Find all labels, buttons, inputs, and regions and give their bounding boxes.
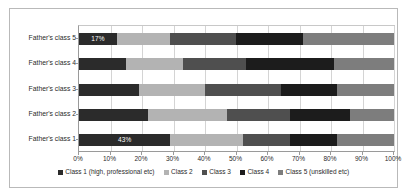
legend-label: Class 1 (high, professional etc) [65,169,154,176]
y-axis-tick [76,139,78,140]
y-axis-label-5: Father's class 5 [12,34,76,41]
legend-item-2[interactable]: Class 2 [164,169,193,176]
y-axis-label-2: Father's class 2 [12,110,76,117]
legend-swatch-icon [202,170,207,175]
bar-segment[interactable] [334,58,394,70]
bar-segment[interactable] [126,58,183,70]
bar-segment[interactable] [227,109,290,121]
x-axis-tick-label: 10% [103,156,116,163]
bar-segment[interactable] [337,134,394,146]
bar-segment[interactable] [139,84,205,96]
bar-row: 43% [79,134,394,146]
bar-row: 17% [79,33,394,45]
x-axis-tick-label: 0% [73,156,82,163]
x-axis-tick-label: 20% [134,156,147,163]
y-axis-tick [76,89,78,90]
bar-segment-data-label: 17% [79,35,117,42]
bar-segment[interactable] [117,33,171,45]
x-axis-tick-label: 70% [292,156,305,163]
bar-track [79,58,394,70]
chart-legend: Class 1 (high, professional etc)Class 2C… [10,169,397,176]
y-axis-label-3: Father's class 3 [12,85,76,92]
bar-track [79,109,394,121]
x-axis-tick-label: 80% [323,156,336,163]
legend-item-3[interactable]: Class 3 [202,169,231,176]
bar-segment[interactable] [79,58,126,70]
bar-segment[interactable] [350,109,394,121]
bar-segment[interactable] [243,134,290,146]
x-axis-tick-label: 40% [197,156,210,163]
bar-segment[interactable] [183,58,246,70]
y-axis-tick [76,38,78,39]
bar-segment-data-label: 43% [79,137,170,144]
bar-segment[interactable] [170,33,236,45]
chart-frame: Father's class 5Father's class 4Father's… [9,8,398,188]
bar-segment[interactable]: 17% [79,33,117,45]
bar-segment[interactable] [281,84,338,96]
y-axis-tick [76,63,78,64]
legend-label: Class 4 [247,169,269,176]
legend-item-1[interactable]: Class 1 (high, professional etc) [58,169,155,176]
plot-area: 17%43% [78,25,395,152]
bar-segment[interactable] [337,84,394,96]
x-axis-tick-label: 30% [166,156,179,163]
bar-row [79,84,394,96]
bar-segment[interactable] [148,109,227,121]
y-axis-label-4: Father's class 4 [12,60,76,67]
bar-segment[interactable] [79,109,148,121]
x-axis: 0%10%20%30%40%50%60%70%80%90%100% [78,152,395,166]
legend-swatch-icon [278,170,283,175]
legend-item-5[interactable]: Class 5 (unskilled etc) [278,169,349,176]
y-axis-tick [76,114,78,115]
legend-item-4[interactable]: Class 4 [240,169,269,176]
bar-segment[interactable]: 43% [79,134,170,146]
bar-track [79,84,394,96]
bar-track: 17% [79,33,394,45]
x-axis-tick-label: 60% [260,156,273,163]
legend-label: Class 2 [171,169,193,176]
bar-segment[interactable] [236,33,302,45]
y-axis-label-1: Father's class 1 [12,136,76,143]
bar-segment[interactable] [303,33,394,45]
bar-row [79,109,394,121]
bar-track: 43% [79,134,394,146]
bar-row [79,58,394,70]
legend-swatch-icon [58,170,63,175]
bar-segment[interactable] [290,109,350,121]
bar-segment[interactable] [290,134,337,146]
bar-segment[interactable] [79,84,139,96]
legend-swatch-icon [240,170,245,175]
bar-segment[interactable] [246,58,334,70]
x-axis-tick-label: 90% [355,156,368,163]
legend-label: Class 5 (unskilled etc) [286,169,350,176]
legend-swatch-icon [164,170,169,175]
x-axis-tick-label: 100% [385,156,402,163]
bar-segment[interactable] [170,134,242,146]
gridline [394,26,395,151]
legend-label: Class 3 [209,169,231,176]
y-axis-category-labels: Father's class 5Father's class 4Father's… [10,25,76,152]
x-axis-tick-label: 50% [229,156,242,163]
bar-segment[interactable] [205,84,281,96]
